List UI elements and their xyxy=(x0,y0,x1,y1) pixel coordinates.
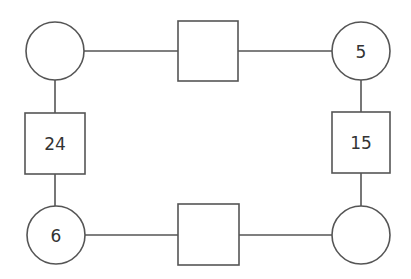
square-left: 24 xyxy=(25,113,85,174)
circle-bottom-right xyxy=(332,206,390,264)
square-bottom xyxy=(178,204,239,265)
square-right-value: 15 xyxy=(350,133,372,153)
circle-bottom-left: 6 xyxy=(27,206,85,264)
circle-bottom-left-value: 6 xyxy=(51,226,62,246)
circle-top-right: 5 xyxy=(332,22,390,80)
puzzle-diagram: 5 24 15 6 xyxy=(0,0,411,279)
circle-top-left xyxy=(26,22,84,80)
circle-top-right-value: 5 xyxy=(356,42,367,62)
square-right: 15 xyxy=(332,112,390,173)
square-left-value: 24 xyxy=(44,134,66,154)
square-top xyxy=(178,21,238,81)
